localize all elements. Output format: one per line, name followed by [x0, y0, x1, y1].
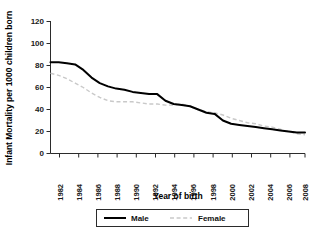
- x-axis: [51, 154, 306, 158]
- y-tick-label: 40: [35, 105, 44, 114]
- y-tick-label: 60: [35, 83, 44, 92]
- x-tick-label: 1988: [113, 184, 122, 201]
- x-tick-label: 1986: [94, 184, 103, 201]
- y-tick-label: 0: [40, 149, 45, 158]
- x-tick-label: 1990: [132, 184, 141, 201]
- series-line-male: [51, 62, 306, 132]
- x-tick-label: 2006: [285, 184, 294, 201]
- legend-label-male: Male: [131, 214, 149, 223]
- legend-label-female: Female: [198, 214, 226, 223]
- y-tick-label: 80: [35, 61, 44, 70]
- x-axis-title: Year of birth: [153, 191, 203, 201]
- infant-mortality-chart: Infant Mortality per 1000 children born …: [0, 0, 326, 232]
- x-tick-label: 2000: [228, 184, 237, 201]
- legend: Male Female: [97, 210, 249, 227]
- y-tick-label: 100: [31, 39, 45, 48]
- y-tick-label: 120: [31, 17, 45, 26]
- y-tick-label: 20: [35, 127, 44, 136]
- x-tick-label: 1998: [209, 184, 218, 201]
- y-tick-labels: 0 20 40 60 80 100 120: [31, 17, 45, 158]
- x-tick-label: 2008: [301, 184, 310, 201]
- chart-figure: Infant Mortality per 1000 children born …: [0, 0, 326, 232]
- x-tick-label: 2002: [247, 184, 256, 201]
- y-axis: [47, 21, 51, 154]
- y-axis-title: Infant Mortality per 1000 children born: [4, 11, 14, 165]
- x-tick-label: 1984: [75, 183, 84, 201]
- x-tick-label: 1982: [56, 184, 65, 201]
- x-tick-label: 2004: [266, 183, 275, 201]
